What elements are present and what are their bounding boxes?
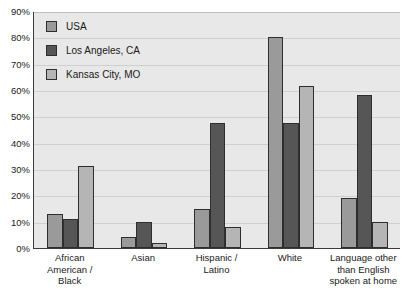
legend-label: Los Angeles, CA: [66, 45, 140, 56]
x-tick-label-line: Latino: [172, 264, 261, 276]
bar: [283, 123, 299, 248]
bar-group: [194, 12, 241, 248]
bar: [194, 209, 210, 249]
y-tick-label: 80%: [11, 33, 30, 43]
bar: [78, 166, 94, 248]
y-tick-label: 30%: [11, 165, 30, 175]
y-tick-label: 90%: [11, 7, 30, 17]
bar: [372, 222, 388, 248]
bar-chart: 0%10%20%30%40%50%60%70%80%90% USALos Ang…: [0, 0, 413, 298]
y-tick-label: 60%: [11, 86, 30, 96]
x-axis: AfricanAmerican /BlackAsianHispanic /Lat…: [33, 252, 400, 298]
y-tick-label: 20%: [11, 191, 30, 201]
x-tick-label-line: Language other: [319, 252, 408, 264]
bar: [299, 86, 315, 248]
legend-item: Los Angeles, CA: [46, 38, 176, 62]
bar: [268, 37, 284, 248]
legend-label: USA: [66, 21, 87, 32]
bar: [152, 243, 168, 248]
bar: [47, 214, 63, 248]
bar: [136, 222, 152, 248]
bar-group: [341, 12, 388, 248]
bar: [357, 95, 373, 248]
y-tick-label: 50%: [11, 112, 30, 122]
legend-item: USA: [46, 14, 176, 38]
bar: [210, 123, 226, 248]
x-tick-label-line: than English: [319, 264, 408, 276]
bar-group: [268, 12, 315, 248]
legend-swatch-icon: [46, 21, 57, 32]
x-tick-label-line: Black: [25, 275, 114, 287]
legend-swatch-icon: [46, 69, 57, 80]
x-tick-label-line: spoken at home: [319, 275, 408, 287]
legend-item: Kansas City, MO: [46, 62, 176, 86]
bar: [121, 237, 137, 248]
x-tick-label: Language otherthan Englishspoken at home: [319, 252, 408, 287]
bar: [63, 219, 79, 248]
bar: [341, 198, 357, 248]
y-tick-label: 40%: [11, 139, 30, 149]
x-tick-label-line: American /: [25, 264, 114, 276]
legend: USALos Angeles, CAKansas City, MO: [46, 14, 176, 86]
legend-label: Kansas City, MO: [66, 69, 140, 80]
bar: [225, 227, 241, 248]
y-tick-label: 70%: [11, 60, 30, 70]
legend-swatch-icon: [46, 45, 57, 56]
y-tick-label: 10%: [11, 218, 30, 228]
